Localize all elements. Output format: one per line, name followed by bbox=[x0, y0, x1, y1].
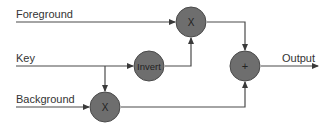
multiply-node-background: X bbox=[90, 92, 120, 122]
multiply-symbol: X bbox=[102, 102, 109, 113]
keying-diagram: Foreground Key Background Output X Inver… bbox=[0, 0, 327, 130]
invert-symbol: Invert bbox=[137, 61, 161, 72]
background-label: Background bbox=[16, 93, 75, 105]
add-node: + bbox=[230, 51, 260, 81]
output-label: Output bbox=[282, 52, 315, 64]
invert-to-multiply-wire bbox=[165, 38, 191, 66]
foreground-label: Foreground bbox=[16, 8, 73, 20]
multiply-node-foreground: X bbox=[176, 7, 206, 37]
multiply-symbol: X bbox=[188, 17, 195, 28]
key-label: Key bbox=[16, 52, 35, 64]
invert-node: Invert bbox=[134, 51, 164, 81]
plus-symbol: + bbox=[242, 60, 248, 72]
bg-product-wire bbox=[121, 82, 245, 107]
fg-product-wire bbox=[207, 22, 245, 50]
